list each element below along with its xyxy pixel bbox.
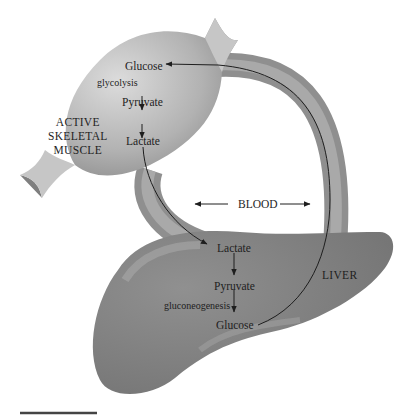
muscle-lactate-label: Lactate <box>126 136 160 148</box>
blood-label: BLOOD <box>236 199 280 211</box>
glycolysis-label: glycolysis <box>97 78 138 88</box>
liver-pyruvate-label: Pyruvate <box>214 281 255 293</box>
muscle-pyruvate-label: Pyruvate <box>122 97 163 109</box>
cori-cycle-diagram <box>0 0 404 417</box>
gluconeogenesis-label: gluconeogenesis <box>164 301 230 311</box>
liver-label: LIVER <box>322 268 357 282</box>
muscle-label-line-3: MUSCLE <box>48 143 108 157</box>
liver-lactate-label: Lactate <box>217 243 251 255</box>
muscle-label-line-2: SKELETAL <box>48 129 108 143</box>
liver-shape <box>93 231 393 394</box>
muscle-label: ACTIVE SKELETAL MUSCLE <box>48 115 108 157</box>
muscle-label-line-1: ACTIVE <box>48 115 108 129</box>
liver-glucose-label: Glucose <box>216 320 254 332</box>
muscle-glucose-label: Glucose <box>125 61 163 73</box>
